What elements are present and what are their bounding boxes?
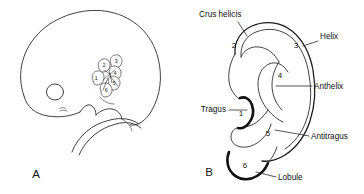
panel-b-letter: B [205, 166, 213, 178]
helix-outer-rim [235, 23, 315, 162]
antitragus-leader [275, 130, 309, 136]
crus-helicis-ridge [241, 47, 279, 62]
lobule-outline [227, 152, 268, 179]
auricle-number-2: 2 [232, 41, 237, 50]
label-tragus: Tragus [201, 105, 226, 114]
embryo-head-outline [21, 10, 161, 125]
label-lobule: Lobule [278, 173, 303, 182]
helix-anterior-descent [229, 54, 239, 99]
anatomy-figure: 1 2 3 4 5 6 [0, 0, 364, 194]
panel-b-auricle: 1 2 3 4 5 6 Crus helicis Helix Anthelix … [199, 10, 348, 182]
embryo-eye [47, 84, 64, 100]
auricle-number-5: 5 [266, 129, 271, 138]
auricular-hillock-cluster: 1 2 3 4 5 6 [89, 55, 124, 97]
mandibular-arch [80, 105, 96, 115]
hillock-6-number: 6 [105, 87, 108, 93]
auricle-number-4: 4 [278, 71, 283, 80]
auricle-number-6: 6 [243, 161, 248, 170]
label-anthelix: Anthelix [314, 82, 343, 91]
label-antitragus: Antitragus [311, 132, 348, 141]
external-acoustic-meatus [100, 97, 114, 104]
hillock-3-number: 3 [115, 58, 118, 64]
body-contour [79, 123, 141, 155]
hillock-1-number: 1 [95, 75, 98, 81]
label-crus-helicis: Crus helicis [199, 10, 241, 19]
hyoid-arch-fold [96, 109, 122, 119]
neck-contour [72, 119, 139, 152]
figure-container: 1 2 3 4 5 6 [0, 0, 364, 194]
embryo-nasal-mark [60, 110, 67, 111]
hillock-2-number: 2 [103, 62, 106, 68]
panel-a-letter: A [32, 168, 40, 180]
embryo-nasal-pit [59, 108, 66, 110]
helix-leader [303, 41, 318, 46]
auricle-number-3: 3 [294, 41, 299, 50]
label-helix: Helix [320, 32, 338, 41]
panel-a-embryo: 1 2 3 4 5 6 [21, 10, 161, 180]
